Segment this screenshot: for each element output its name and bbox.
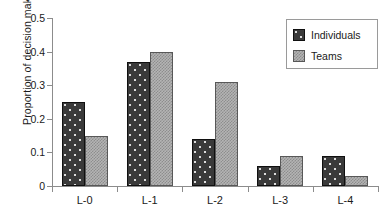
bar-chart-figure: Proportion of decision makers 00.10.20.3… [0,0,391,215]
chart-legend: Individuals Teams [286,19,378,69]
y-axis-tick-label: 0 [39,180,45,192]
legend-item-individuals: Individuals [293,28,361,41]
x-axis-category-label: L-4 [337,194,353,206]
bar-teams-l-3 [280,156,303,186]
legend-item-label: Individuals [311,29,361,41]
bar-individuals-l-1 [127,62,150,186]
legend-item-teams: Teams [293,49,342,62]
y-axis-tick-label: 0.3 [30,79,45,91]
bar-individuals-l-3 [257,166,280,186]
x-axis-tick-mark [182,187,183,192]
bar-individuals-l-0 [62,102,85,186]
x-axis-tick-mark [313,187,314,192]
bar-teams-l-1 [150,52,173,186]
x-axis-tick-mark [248,187,249,192]
bar-teams-l-0 [85,136,108,186]
bar-group [52,18,117,186]
light-checkered-swatch-icon [293,50,305,62]
legend-item-label: Teams [311,50,342,62]
x-axis-tick-mark [378,187,379,192]
x-axis-ticks [52,187,379,193]
x-axis-category-label: L-0 [77,194,93,206]
y-axis-tick-label: 0.5 [30,12,45,24]
bar-individuals-l-4 [322,156,345,186]
y-axis-tick-label: 0.2 [30,113,45,125]
x-axis-tick-mark [52,187,53,192]
x-axis-category-label: L-2 [207,194,223,206]
y-axis-tick-label: 0.1 [30,146,45,158]
bar-group [117,18,182,186]
dark-dotted-swatch-icon [293,29,305,41]
y-axis-tick-label: 0.4 [30,46,45,58]
bar-teams-l-2 [215,82,238,186]
bar-individuals-l-2 [192,139,215,186]
bar-group [182,18,247,186]
x-axis-tick-mark [117,187,118,192]
bar-teams-l-4 [345,176,368,186]
x-axis-category-label: L-1 [142,194,158,206]
x-axis-category-label: L-3 [272,194,288,206]
